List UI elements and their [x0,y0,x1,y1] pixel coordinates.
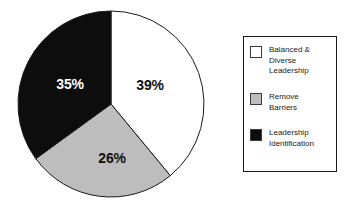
pie-chart-page: 39%26%35% Balanced & Diverse Leadership … [0,0,351,216]
legend-label-line: Leadership [269,128,314,139]
legend-swatch-balanced-diverse-leadership [250,46,262,58]
legend-item-leadership-identification[interactable]: Leadership Identification [250,128,314,149]
pie-chart-svg [0,0,232,216]
pie-chart: 39%26%35% [0,0,232,216]
legend-swatch-remove-barriers [250,93,262,105]
legend-label-line: Remove [269,92,299,103]
legend-label-line: Barriers [269,103,299,114]
legend-label-leadership-identification: Leadership Identification [269,128,314,149]
legend-label-remove-barriers: Remove Barriers [269,92,299,113]
legend-label-line: Balanced & [269,45,310,56]
legend-label-line: Leadership [269,66,310,77]
legend-label-line: Diverse [269,56,310,67]
legend-label-line: Identification [269,139,314,150]
legend-label-balanced-diverse-leadership: Balanced & Diverse Leadership [269,45,310,77]
chart-legend: Balanced & Diverse Leadership Remove Bar… [243,36,337,172]
legend-swatch-leadership-identification [250,129,262,141]
legend-item-remove-barriers[interactable]: Remove Barriers [250,92,299,113]
legend-item-balanced-diverse-leadership[interactable]: Balanced & Diverse Leadership [250,45,310,77]
